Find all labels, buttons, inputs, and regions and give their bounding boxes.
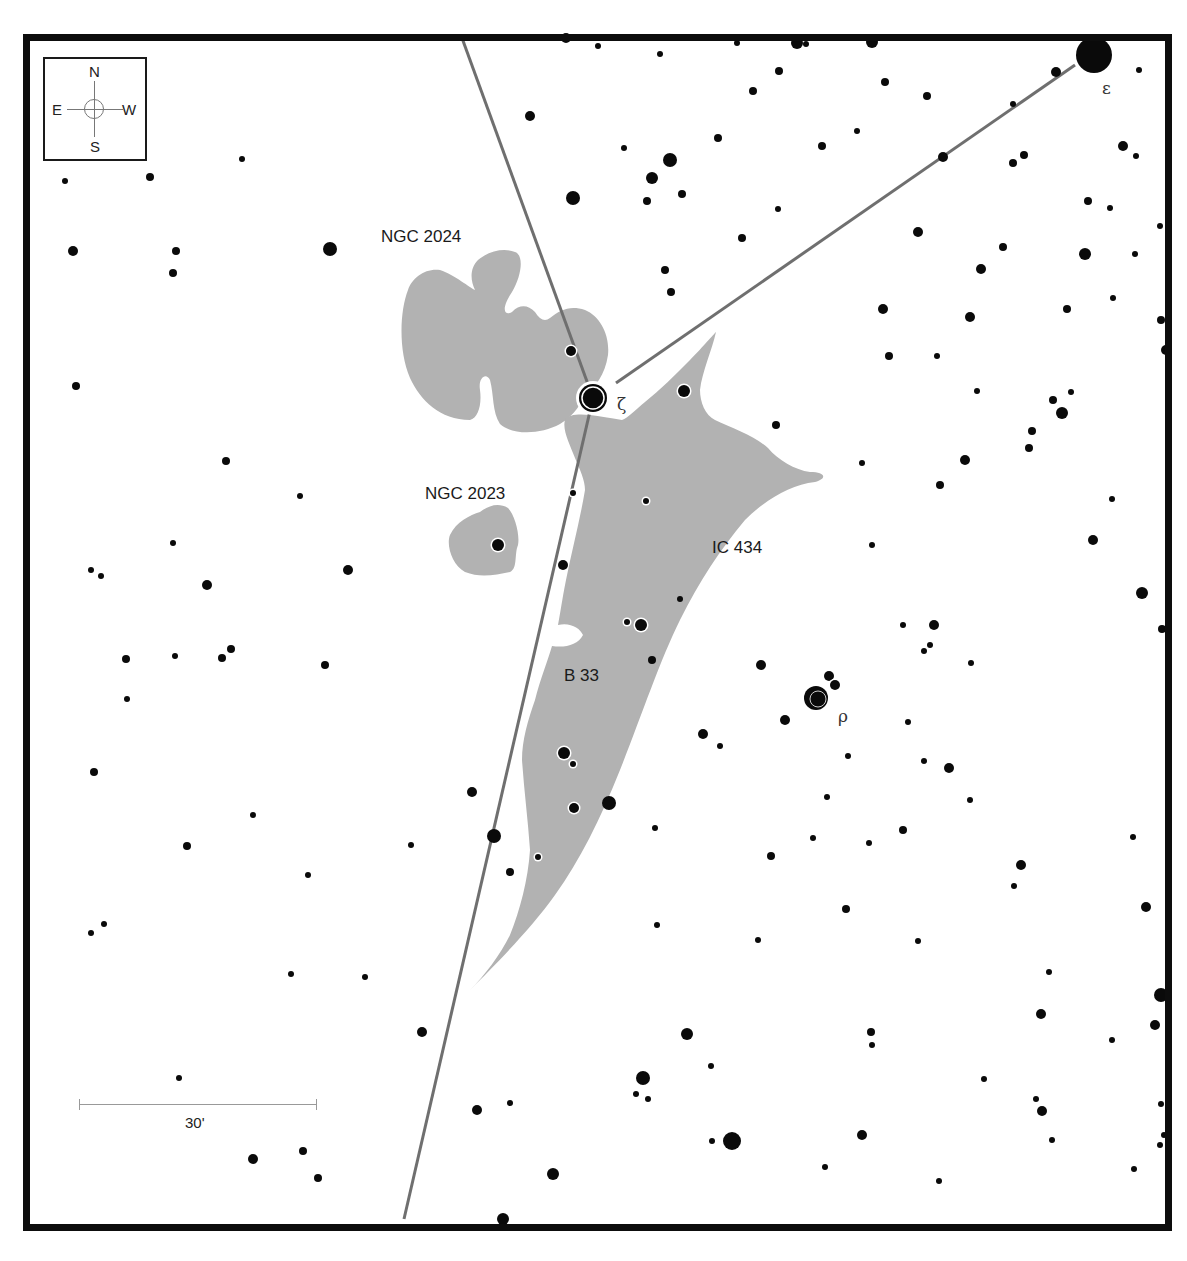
star <box>791 37 803 49</box>
star <box>72 382 80 390</box>
star <box>1154 988 1168 1002</box>
star <box>818 142 826 150</box>
star <box>936 1178 942 1184</box>
star <box>717 743 723 749</box>
star <box>698 729 708 739</box>
compass-west-label: W <box>122 102 136 117</box>
star <box>775 67 783 75</box>
star <box>1107 205 1113 211</box>
star <box>1028 427 1036 435</box>
star <box>866 36 878 48</box>
star <box>146 173 154 181</box>
scale-bar-label: 30' <box>185 1114 205 1131</box>
star <box>967 797 973 803</box>
star <box>170 540 176 546</box>
star <box>1033 1096 1039 1102</box>
star <box>506 868 514 876</box>
star <box>595 43 601 49</box>
star <box>98 573 104 579</box>
star <box>921 648 927 654</box>
star <box>934 353 940 359</box>
star-zeta <box>579 384 607 412</box>
star <box>558 747 570 759</box>
star <box>999 243 1007 251</box>
star <box>772 421 780 429</box>
star <box>621 145 627 151</box>
star <box>929 620 939 630</box>
star <box>775 206 781 212</box>
star <box>558 560 568 570</box>
star <box>169 269 177 277</box>
star <box>343 565 353 575</box>
label-ngc-2023: NGC 2023 <box>425 485 505 502</box>
nebulae-layer <box>402 250 824 990</box>
star <box>566 191 580 205</box>
star <box>172 247 180 255</box>
star <box>1079 248 1091 260</box>
star <box>1056 407 1068 419</box>
star <box>417 1027 427 1037</box>
star <box>525 111 535 121</box>
star <box>974 388 980 394</box>
star <box>921 758 927 764</box>
star <box>1141 902 1151 912</box>
star <box>923 92 931 100</box>
star <box>239 156 245 162</box>
star <box>842 905 850 913</box>
star <box>927 642 933 648</box>
star <box>602 796 616 810</box>
star <box>1133 153 1139 159</box>
label-zeta: ζ <box>617 396 626 413</box>
star <box>648 656 656 664</box>
star <box>866 840 872 846</box>
star <box>297 493 303 499</box>
star <box>936 481 944 489</box>
star <box>1020 151 1028 159</box>
star <box>222 457 230 465</box>
star <box>1157 1142 1163 1148</box>
star <box>859 460 865 466</box>
star-map-canvas <box>0 0 1187 1261</box>
star <box>624 619 630 625</box>
star <box>1063 305 1071 313</box>
star <box>905 719 911 725</box>
star <box>1084 197 1092 205</box>
star <box>1118 141 1128 151</box>
label-rho: ρ <box>838 708 848 725</box>
label-epsilon: ε <box>1102 80 1111 97</box>
star <box>968 660 974 666</box>
compass-north-label: N <box>89 64 100 79</box>
star <box>176 1075 182 1081</box>
star <box>646 172 658 184</box>
star <box>667 288 675 296</box>
label-b-33: B 33 <box>564 667 599 684</box>
star <box>635 619 647 631</box>
star <box>654 922 660 928</box>
star <box>756 660 766 670</box>
star <box>708 1063 714 1069</box>
star <box>122 655 130 663</box>
pointer-lines-layer <box>404 38 1075 1219</box>
star <box>1158 1101 1164 1107</box>
star <box>867 1028 875 1036</box>
star <box>124 696 130 702</box>
star <box>566 346 576 356</box>
star <box>305 872 311 878</box>
star <box>250 812 256 818</box>
star <box>854 128 860 134</box>
compass-ring-icon <box>84 99 104 119</box>
compass-south-label: S <box>90 139 100 154</box>
star <box>824 794 830 800</box>
star <box>709 1138 715 1144</box>
star <box>299 1147 307 1155</box>
star <box>227 645 235 653</box>
star <box>472 1105 482 1115</box>
star <box>1088 535 1098 545</box>
star <box>714 134 722 142</box>
star <box>723 1132 741 1150</box>
star <box>467 787 477 797</box>
star <box>663 153 677 167</box>
star <box>869 542 875 548</box>
star <box>661 266 669 274</box>
star <box>1157 223 1163 229</box>
